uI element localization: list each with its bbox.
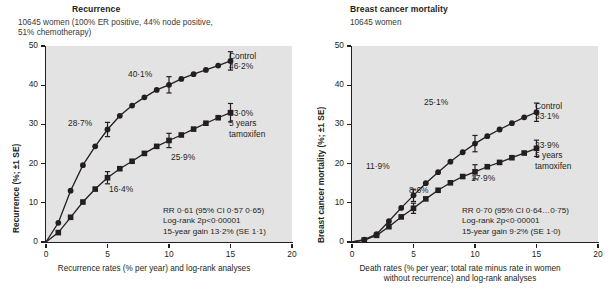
data-point bbox=[485, 164, 491, 170]
data-point bbox=[68, 215, 74, 221]
data-point bbox=[203, 67, 209, 73]
data-point bbox=[448, 159, 454, 165]
data-point bbox=[129, 103, 135, 109]
x-tick-label-mortality-5: 5 bbox=[399, 249, 429, 259]
data-point bbox=[191, 126, 197, 132]
y-tick-label-recurrence-30: 30 bbox=[14, 118, 38, 128]
y-tick-label-mortality-0: 0 bbox=[320, 236, 344, 246]
data-point bbox=[203, 120, 209, 126]
data-point bbox=[386, 218, 392, 224]
y-tick-mortality-30 bbox=[347, 124, 351, 125]
y-tick-label-mortality-50: 50 bbox=[320, 40, 344, 50]
y-tick-mortality-50 bbox=[347, 45, 351, 46]
x-tick-label-mortality-0: 0 bbox=[337, 249, 367, 259]
stats-annotation-mortality: RR 0·70 (95% CI 0·64…0·75) Log-rank 2p<0… bbox=[462, 206, 569, 237]
y-tick-label-mortality-40: 40 bbox=[320, 79, 344, 89]
x-tick-recurrence-20 bbox=[291, 244, 292, 248]
point-label-tamoxifen-10yr-mortality: 17·9% bbox=[471, 173, 495, 183]
data-point bbox=[472, 141, 478, 147]
x-tick-mortality-20 bbox=[597, 244, 598, 248]
data-point bbox=[68, 188, 74, 194]
data-point bbox=[423, 196, 429, 202]
end-label-control-mortality: Control 33·1% bbox=[535, 101, 562, 122]
y-tick-recurrence-10 bbox=[41, 202, 45, 203]
x-tick-recurrence-15 bbox=[230, 244, 231, 248]
data-point bbox=[191, 71, 197, 77]
data-point bbox=[398, 205, 404, 211]
x-tick-mortality-0 bbox=[351, 244, 352, 248]
y-tick-recurrence-20 bbox=[41, 163, 45, 164]
data-point bbox=[92, 186, 98, 192]
data-point bbox=[80, 162, 86, 168]
data-point bbox=[105, 127, 111, 133]
data-point bbox=[117, 166, 123, 172]
panel-recurrence: Recurrence 10645 women (100% ER positive… bbox=[0, 0, 304, 298]
point-label-control-10yr-recurrence: 40·1% bbox=[128, 69, 152, 79]
data-point bbox=[117, 113, 123, 119]
y-tick-label-mortality-10: 10 bbox=[320, 197, 344, 207]
y-tick-mortality-40 bbox=[347, 85, 351, 86]
y-tick-label-recurrence-0: 0 bbox=[14, 236, 38, 246]
x-tick-recurrence-10 bbox=[168, 244, 169, 248]
data-point bbox=[509, 155, 515, 161]
data-point bbox=[166, 138, 172, 144]
data-point bbox=[521, 150, 527, 156]
point-label-control-10yr-mortality: 25·1% bbox=[424, 97, 448, 107]
data-point bbox=[154, 144, 160, 150]
data-point bbox=[435, 169, 441, 175]
data-point bbox=[179, 132, 185, 138]
data-point bbox=[521, 114, 527, 120]
y-tick-recurrence-30 bbox=[41, 124, 45, 125]
data-point bbox=[142, 151, 148, 157]
stats-annotation-recurrence: RR 0·61 (95% CI 0·57 0·65) Log-rank 2p<0… bbox=[163, 206, 266, 237]
data-point bbox=[497, 127, 503, 133]
data-point bbox=[215, 63, 221, 69]
x-tick-label-recurrence-15: 15 bbox=[216, 249, 246, 259]
x-tick-mortality-5 bbox=[413, 244, 414, 248]
x-tick-recurrence-5 bbox=[107, 244, 108, 248]
x-axis-caption-mortality: Death rates (% per year; total rate minu… bbox=[319, 264, 601, 285]
data-point bbox=[435, 187, 441, 193]
data-point bbox=[92, 143, 98, 149]
end-label-control-recurrence: Control 46·2% bbox=[229, 51, 256, 72]
y-tick-mortality-0 bbox=[347, 241, 351, 242]
point-label-control-5yr-recurrence: 28·7% bbox=[68, 118, 92, 128]
point-label-tamoxifen-5yr-recurrence: 16·4% bbox=[109, 184, 133, 194]
data-point bbox=[497, 160, 503, 166]
x-tick-mortality-10 bbox=[474, 244, 475, 248]
x-tick-label-mortality-15: 15 bbox=[522, 249, 552, 259]
data-point bbox=[362, 237, 368, 243]
data-point bbox=[105, 175, 111, 181]
x-axis-caption-recurrence: Recurrence rates (% per year) and log-ra… bbox=[14, 264, 294, 274]
x-tick-label-mortality-10: 10 bbox=[460, 249, 490, 259]
data-point bbox=[142, 94, 148, 100]
data-point bbox=[411, 205, 417, 211]
y-tick-recurrence-50 bbox=[41, 45, 45, 46]
x-tick-label-recurrence-20: 20 bbox=[277, 249, 307, 259]
y-tick-label-recurrence-20: 20 bbox=[14, 158, 38, 168]
point-label-tamoxifen-10yr-recurrence: 25·9% bbox=[171, 152, 195, 162]
data-point bbox=[166, 82, 172, 88]
end-label-tamoxifen-mortality: 23·9% 5 years tamoxifen bbox=[535, 140, 571, 171]
point-label-control-5yr-mortality: 11·9% bbox=[366, 161, 390, 171]
x-tick-recurrence-0 bbox=[45, 244, 46, 248]
y-tick-recurrence-0 bbox=[41, 241, 45, 242]
data-point bbox=[154, 87, 160, 93]
y-tick-label-mortality-20: 20 bbox=[320, 158, 344, 168]
x-tick-mortality-15 bbox=[536, 244, 537, 248]
y-tick-label-recurrence-40: 40 bbox=[14, 79, 38, 89]
data-point bbox=[386, 224, 392, 230]
data-point bbox=[484, 133, 490, 139]
two-panel-survival-figure: Recurrence 10645 women (100% ER positive… bbox=[0, 0, 609, 298]
data-point bbox=[448, 180, 454, 186]
data-point bbox=[509, 120, 515, 126]
data-point bbox=[178, 76, 184, 82]
point-label-tamoxifen-5yr-mortality: 8·6% bbox=[409, 185, 429, 195]
data-point bbox=[398, 214, 404, 220]
y-tick-mortality-10 bbox=[347, 202, 351, 203]
data-point bbox=[80, 199, 86, 205]
x-tick-label-mortality-20: 20 bbox=[583, 249, 609, 259]
data-point bbox=[129, 158, 135, 164]
data-point bbox=[215, 115, 221, 121]
data-point bbox=[374, 233, 380, 239]
